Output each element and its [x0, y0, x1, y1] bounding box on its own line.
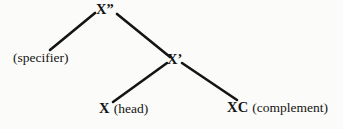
xbar-tree-diagram: X” (specifier) X’ X(head) XC(complement)	[0, 0, 343, 129]
node-maximal-projection: X”	[96, 2, 114, 17]
branch-xmax-to-xbar	[117, 14, 170, 57]
node-intermediate-projection: X’	[167, 52, 182, 67]
complement-gloss-label: (complement)	[248, 100, 328, 115]
branch-xbar-to-head	[113, 63, 167, 102]
node-specifier: (specifier)	[13, 51, 68, 65]
branch-xbar-to-complement	[182, 63, 237, 100]
complement-category-label: XC	[227, 99, 248, 115]
node-complement: XC(complement)	[227, 100, 328, 115]
node-head: X(head)	[99, 101, 148, 116]
head-gloss-label: (head)	[110, 101, 148, 116]
branch-xmax-to-specifier	[50, 13, 95, 50]
head-category-label: X	[99, 100, 110, 116]
